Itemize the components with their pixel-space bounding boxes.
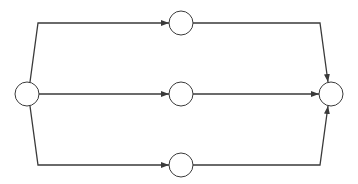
edge-source-to-bottom [30, 106, 169, 165]
node-source [15, 82, 39, 106]
edge-source-to-top [30, 23, 169, 82]
flow-diagram [0, 0, 358, 184]
node-top [169, 11, 193, 35]
node-bottom [169, 153, 193, 177]
edge-bottom-to-sink [193, 106, 328, 165]
node-sink [319, 82, 343, 106]
edge-top-to-sink [193, 23, 328, 82]
node-middle [169, 82, 193, 106]
